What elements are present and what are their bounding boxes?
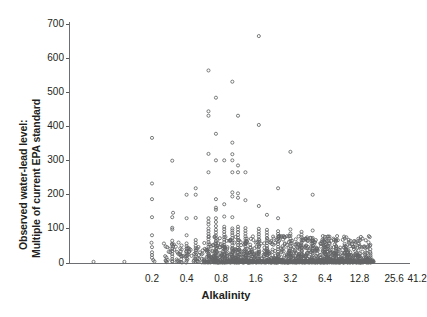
- scatter-point: [207, 110, 210, 113]
- scatter-point: [171, 159, 174, 162]
- scatter-point: [244, 171, 247, 174]
- scatter-point: [162, 242, 165, 245]
- scatter-point: [171, 239, 174, 242]
- scatter-point: [236, 114, 239, 117]
- scatter-point: [214, 217, 217, 220]
- scatter-point: [207, 171, 210, 174]
- scatter-point: [223, 215, 226, 218]
- scatter-point: [231, 171, 234, 174]
- scatter-point: [194, 216, 197, 219]
- scatter-point: [236, 164, 239, 167]
- scatter-point: [171, 216, 174, 219]
- scatter-point: [231, 141, 234, 144]
- scatter-point: [231, 159, 234, 162]
- scatter-point: [150, 241, 153, 244]
- scatter-point: [150, 216, 153, 219]
- scatter-point: [277, 187, 280, 190]
- scatter-point: [194, 193, 197, 196]
- scatter-point: [185, 234, 188, 237]
- scatter-point: [231, 153, 234, 156]
- scatter-point: [92, 260, 95, 263]
- scatter-point: [207, 114, 210, 117]
- scatter-point: [236, 192, 239, 195]
- scatter-point: [172, 211, 175, 214]
- scatter-point: [218, 237, 221, 240]
- scatter-point: [214, 225, 217, 228]
- scatter-point: [236, 171, 239, 174]
- scatter-point: [233, 241, 236, 244]
- scatter-point: [214, 220, 217, 223]
- scatter-point: [214, 198, 217, 201]
- scatter-point: [185, 193, 188, 196]
- scatter-point: [367, 241, 370, 244]
- scatter-point: [257, 204, 260, 207]
- scatter-point: [214, 159, 217, 162]
- scatter-point: [207, 69, 210, 72]
- scatter-point: [214, 132, 217, 135]
- scatter-point: [150, 182, 153, 185]
- scatter-point: [223, 203, 226, 206]
- scatter-point: [214, 208, 217, 211]
- scatter-point: [207, 152, 210, 155]
- scatter-point: [150, 246, 153, 249]
- scatter-point: [231, 216, 234, 219]
- scatter-point: [236, 196, 239, 199]
- scatter-point: [289, 150, 292, 153]
- scatter-point: [294, 238, 297, 241]
- scatter-point: [311, 193, 314, 196]
- scatter-point: [311, 229, 314, 232]
- scatter-point: [277, 217, 280, 220]
- scatter-point: [231, 80, 234, 83]
- scatter-point: [207, 217, 210, 220]
- scatter-point: [244, 199, 247, 202]
- scatter-point: [231, 191, 234, 194]
- scatter-point: [289, 228, 292, 231]
- scatter-point: [150, 234, 153, 237]
- scatter-point: [336, 235, 339, 238]
- scatter-point: [214, 96, 217, 99]
- scatter-point: [223, 159, 226, 162]
- scatter-point: [150, 136, 153, 139]
- scatter-point: [194, 187, 197, 190]
- scatter-point: [177, 241, 180, 244]
- scatter-point: [190, 254, 193, 257]
- scatter-point: [231, 195, 234, 198]
- scatter-point: [297, 235, 300, 238]
- scatter-point: [203, 241, 206, 244]
- scatter-point: [257, 35, 260, 38]
- scatter-point: [185, 217, 188, 220]
- scatter-point: [257, 123, 260, 126]
- scatter-point: [150, 198, 153, 201]
- scatter-point: [265, 213, 268, 216]
- scatter-point: [123, 260, 126, 263]
